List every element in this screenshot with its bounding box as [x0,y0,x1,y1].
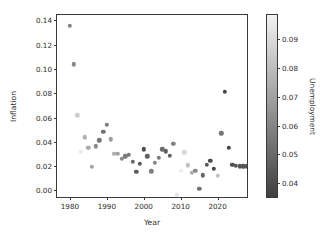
y-tick [54,69,57,70]
y-tick-label: 0.08 [36,89,52,98]
scatter-point [138,162,142,166]
scatter-point [134,169,138,173]
x-tick-label: 2020 [208,202,226,211]
colorbar-tick [277,183,280,184]
y-tick-label: 0.04 [36,137,52,146]
y-tick-label: 0.12 [36,40,52,49]
scatter-point [201,173,205,177]
colorbar-tick [277,68,280,69]
scatter-point [105,123,109,127]
scatter-point [215,173,219,177]
scatter-point [79,149,83,153]
scatter-point [193,169,197,173]
scatter-point [204,162,208,166]
scatter-point [90,165,94,169]
scatter-point [142,147,146,151]
scatter-point [97,138,101,142]
scatter-point [108,137,112,141]
colorbar-label-text: Unemployment [308,78,317,135]
y-tick-label: 0.10 [36,65,52,74]
colorbar-tick-label: 0.07 [282,92,298,101]
scatter-point [94,144,98,148]
x-tick-label: 1990 [98,202,116,211]
colorbar-label: Unemployment [306,14,318,198]
scatter-point [197,187,201,191]
x-tick [70,197,71,200]
plot-area [57,15,247,197]
scatter-point [156,156,160,160]
x-tick-label: 1980 [61,202,79,211]
scatter-point [82,135,86,139]
scatter-point [212,166,216,170]
x-tick [107,197,108,200]
scatter-point [145,154,149,158]
scatter-point [164,149,168,153]
scatter-point [223,90,227,94]
scatter-point [171,142,175,146]
y-axis-label-text: Inflation [10,90,19,121]
colorbar-tick-label: 0.06 [282,121,298,130]
x-tick [181,197,182,200]
colorbar-tick [277,97,280,98]
scatter-point [149,169,153,173]
y-tick [54,166,57,167]
colorbar-tick-label: 0.05 [282,150,298,159]
scatter-point [71,62,75,66]
scatter-point [130,160,134,164]
colorbar-tick-label: 0.04 [282,179,298,188]
scatter-point [127,153,131,157]
scatter-point [182,150,186,154]
colorbar-gradient [267,15,277,197]
scatter-point [245,164,247,168]
colorbar-tick [277,154,280,155]
x-tick [218,197,219,200]
y-tick [54,190,57,191]
x-tick-label: 2000 [135,202,153,211]
scatter-point [175,193,179,197]
colorbar-tick [277,39,280,40]
colorbar-tick-label: 0.08 [282,64,298,73]
y-tick-label: 0.02 [36,162,52,171]
scatter-point [75,113,79,117]
scatter-point [219,131,223,135]
scatter-point [86,146,90,150]
scatter-point [167,154,171,158]
x-tick [144,197,145,200]
y-tick [54,20,57,21]
y-tick-label: 0.14 [36,16,52,25]
y-tick [54,45,57,46]
scatter-point [178,168,182,172]
y-axis-label: Inflation [9,14,19,198]
scatter-point [68,24,72,28]
y-tick-label: 0.00 [36,186,52,195]
y-tick-label: 0.06 [36,113,52,122]
scatter-point [153,161,157,165]
y-tick [54,142,57,143]
scatter-point [101,130,105,134]
colorbar-tick [277,126,280,127]
plot-axes: 0.000.020.040.060.080.100.120.1419801990… [56,14,248,198]
colorbar-tick-label: 0.09 [282,35,298,44]
y-tick [54,93,57,94]
y-tick [54,118,57,119]
x-tick-label: 2010 [172,202,190,211]
scatter-point [226,146,230,150]
x-axis-label: Year [56,218,248,227]
scatter-point [208,159,212,163]
scatter-point [116,152,120,156]
scatter-plot-figure: Inflation 0.000.020.040.060.080.100.120.… [0,0,323,242]
scatter-point [186,163,190,167]
colorbar: 0.040.050.060.070.080.09 [266,14,278,198]
